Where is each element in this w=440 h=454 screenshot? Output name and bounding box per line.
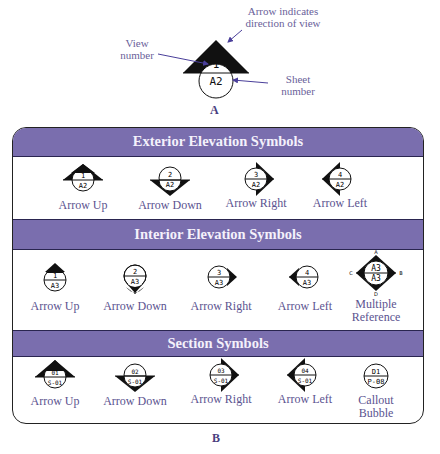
symbol-label: Arrow Up — [12, 395, 100, 408]
svg-text:1: 1 — [53, 272, 57, 280]
arrow-up-symbol-icon: 1 A2 — [61, 163, 105, 197]
arrow-right-symbol-icon: 03 S-01 — [199, 357, 243, 393]
exterior-arrow-right: 3 A2 Arrow Right — [211, 161, 301, 210]
svg-text:S-01: S-01 — [214, 377, 229, 384]
svg-text:01: 01 — [51, 369, 59, 376]
exterior-symbols-row: 1 A2 Arrow Up 2 A2 Arrow Down 3 A2 — [13, 157, 423, 219]
symbol-label: Arrow Up — [12, 300, 100, 313]
svg-text:C: C — [349, 270, 353, 276]
arrow-up-symbol-icon: 1 A3 — [37, 260, 73, 294]
figure-b-caption: B — [212, 431, 220, 446]
svg-text:3: 3 — [254, 171, 258, 179]
svg-text:D: D — [374, 291, 378, 296]
svg-text:04: 04 — [301, 367, 309, 374]
exterior-arrow-up: 1 A2 Arrow Up — [38, 163, 128, 212]
svg-text:A2: A2 — [336, 181, 344, 189]
arrow-right-symbol-icon: 3 A2 — [234, 161, 278, 197]
svg-text:A3: A3 — [131, 278, 139, 286]
symbol-label: Arrow Left — [295, 197, 385, 210]
svg-text:S-01: S-01 — [128, 378, 143, 385]
arrow-down-symbol-icon: 02 S-01 — [113, 359, 157, 393]
svg-text:4: 4 — [338, 171, 342, 179]
symbol-label: Arrow Right — [176, 393, 266, 406]
svg-text:A3: A3 — [215, 279, 223, 287]
sheet-number-text: A2 — [201, 75, 231, 88]
svg-text:2: 2 — [133, 268, 137, 276]
svg-text:2: 2 — [168, 171, 172, 179]
section-arrow-up: 01 S-01 Arrow Up — [12, 359, 100, 408]
symbol-label: Arrow Down — [125, 199, 215, 212]
svg-text:1: 1 — [81, 172, 85, 180]
multiple-reference-symbol-icon: A B D C A3 A3 — [346, 250, 406, 296]
svg-text:A: A — [374, 250, 378, 255]
section-callout-bubble: D1 P-08 Callout Bubble — [331, 360, 421, 420]
section-header-exterior: Exterior Elevation Symbols — [13, 128, 423, 157]
svg-text:3: 3 — [217, 269, 221, 277]
svg-text:D1: D1 — [372, 368, 380, 376]
section-arrow-down: 02 S-01 Arrow Down — [90, 359, 180, 408]
svg-text:A2: A2 — [79, 182, 87, 190]
symbol-label: Arrow Right — [211, 197, 301, 210]
svg-text:A3: A3 — [303, 279, 311, 287]
svg-text:4: 4 — [305, 269, 309, 277]
arrow-left-symbol-icon: 4 A3 — [285, 260, 325, 294]
svg-text:A2: A2 — [166, 181, 174, 189]
arrow-right-symbol-icon: 3 A3 — [201, 260, 241, 294]
section-header-interior: Interior Elevation Symbols — [13, 219, 423, 250]
figure-a-caption: A — [210, 103, 219, 118]
symbol-label: Bubble — [331, 407, 421, 420]
symbol-label: Arrow Up — [38, 199, 128, 212]
arrow-down-symbol-icon: 2 A2 — [148, 163, 192, 197]
svg-text:03: 03 — [217, 367, 225, 374]
section-arrow-right: 03 S-01 Arrow Right — [176, 357, 266, 406]
svg-text:P-08: P-08 — [368, 378, 385, 386]
section-header-section: Section Symbols — [13, 330, 423, 357]
svg-text:B: B — [399, 270, 403, 276]
svg-text:S-01: S-01 — [298, 377, 313, 384]
symbol-label: Arrow Down — [90, 300, 180, 313]
interior-multiple-reference: A B D C A3 A3 Multiple Reference — [331, 250, 421, 324]
arrow-left-symbol-icon: 04 S-01 — [283, 357, 327, 393]
svg-text:A3: A3 — [51, 282, 59, 290]
svg-text:A3: A3 — [371, 264, 381, 273]
interior-arrow-down: 2 A3 Arrow Down — [90, 260, 180, 313]
symbol-label: Arrow Right — [176, 300, 266, 313]
symbols-panel: Exterior Elevation Symbols 1 A2 Arrow Up… — [12, 127, 424, 424]
svg-text:02: 02 — [131, 368, 139, 375]
view-number-text: 1 — [209, 58, 223, 71]
interior-arrow-right: 3 A3 Arrow Right — [176, 260, 266, 313]
arrow-left-symbol-icon: 4 A2 — [318, 161, 362, 197]
svg-text:A3: A3 — [371, 274, 381, 283]
section-symbols-row: 01 S-01 Arrow Up 02 S-01 Arrow Down 03 — [13, 357, 423, 424]
interior-symbols-row: 1 A3 Arrow Up 2 A3 Arrow Down — [13, 250, 423, 330]
callout-bubble-icon: D1 P-08 — [358, 360, 394, 392]
interior-arrow-up: 1 A3 Arrow Up — [12, 260, 100, 313]
arrow-down-symbol-icon: 2 A3 — [117, 260, 153, 294]
arrow-up-symbol-icon: 01 S-01 — [33, 359, 77, 393]
exterior-arrow-left: 4 A2 Arrow Left — [295, 161, 385, 210]
svg-text:A2: A2 — [252, 181, 260, 189]
symbol-label: Arrow Down — [90, 395, 180, 408]
svg-text:S-01: S-01 — [48, 379, 63, 386]
symbol-label: Reference — [331, 311, 421, 324]
exterior-arrow-down: 2 A2 Arrow Down — [125, 163, 215, 212]
